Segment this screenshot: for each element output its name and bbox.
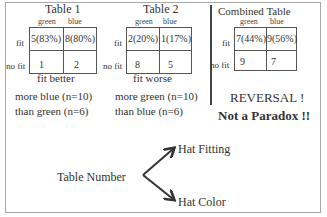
table-2-note-line-2: than blue (n=6) <box>115 105 183 117</box>
table-2-col-blue: blue <box>163 17 177 26</box>
table-1-note-line-1: more blue (n=10) <box>15 90 92 102</box>
table-1-grid: 5(83%) 8(80%) 1 2 <box>29 27 97 74</box>
not-a-paradox-text: Not a Paradox !! <box>218 108 310 124</box>
table-2-grid: 2(20%) 1(17%) 8 5 <box>126 27 192 74</box>
table-2-cell: 2(20%) <box>128 33 158 44</box>
table-1-cell: 5(83%) <box>31 33 61 44</box>
table-2-col-green: green <box>135 17 153 26</box>
table-2-note-line-1: more green (n=10) <box>115 90 198 102</box>
table-1-col-green: green <box>38 17 56 26</box>
table-2-row-nofit: no fit <box>103 61 122 71</box>
table-1-title: Table 1 <box>45 2 80 17</box>
table-1-col-blue: blue <box>68 17 82 26</box>
combined-table-cell: 7(44%) <box>236 33 266 44</box>
table-number-label: Table Number <box>57 170 126 185</box>
table-2-cell: 8 <box>135 59 140 70</box>
table-1-row-nofit: no fit <box>6 61 25 71</box>
table-2-title: Table 2 <box>143 2 178 17</box>
combined-table-title: Combined Table <box>218 5 291 17</box>
vertical-divider <box>210 5 212 105</box>
table-1-row-fit: fit <box>16 38 24 48</box>
table-1-note-line-2: than green (n=6) <box>15 105 88 117</box>
hat-fitting-label: Hat Fitting <box>178 142 230 157</box>
combined-row-nofit: no fit <box>210 60 229 70</box>
table-1-cell: 2 <box>74 59 79 70</box>
arrows-icon <box>140 145 180 205</box>
combined-table-grid: 7(44%) 9(56%) 9 7 <box>234 27 297 71</box>
table-2-cell: 5 <box>168 59 173 70</box>
reversal-text: REVERSAL ! <box>230 90 304 106</box>
table-1-caption: fit better <box>37 72 75 84</box>
table-1-cell: 1 <box>39 59 44 70</box>
combined-table-cell: 9(56%) <box>267 33 297 44</box>
table-2-row-fit: fit <box>114 38 122 48</box>
combined-table-cell: 7 <box>271 56 276 67</box>
table-2-caption: fit worse <box>133 72 172 84</box>
hat-color-label: Hat Color <box>178 195 226 210</box>
combined-col-green: green <box>240 17 258 26</box>
combined-col-blue: blue <box>270 17 284 26</box>
table-1-cell: 8(80%) <box>65 33 95 44</box>
combined-row-fit: fit <box>222 38 230 48</box>
combined-table-cell: 9 <box>240 56 245 67</box>
table-2-cell: 1(17%) <box>161 33 191 44</box>
